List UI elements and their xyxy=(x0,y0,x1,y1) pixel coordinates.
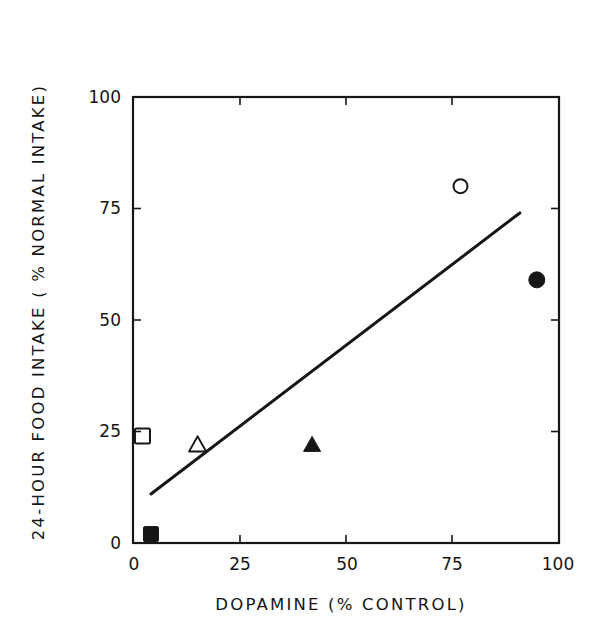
y-tick-0: 0 xyxy=(110,533,121,553)
filled-square-marker xyxy=(143,527,158,542)
data-markers xyxy=(135,179,545,541)
filled-triangle-marker xyxy=(304,436,321,451)
y-axis-label: 24-HOUR FOOD INTAKE ( % NORMAL INTAKE) xyxy=(29,84,48,540)
y-tick-50: 50 xyxy=(99,310,121,330)
x-tick-100: 100 xyxy=(542,554,574,574)
open-circle-marker xyxy=(453,179,467,193)
x-tick-75: 75 xyxy=(441,554,463,574)
filled-circle-marker xyxy=(529,272,545,288)
axis-ticks xyxy=(133,97,559,543)
plot-frame xyxy=(133,97,559,543)
y-tick-25: 25 xyxy=(99,421,121,441)
open-triangle-marker xyxy=(189,436,206,451)
x-tick-25: 25 xyxy=(229,554,251,574)
tick-labels: 0 25 50 75 100 0 25 50 75 100 xyxy=(89,87,575,574)
y-tick-75: 75 xyxy=(99,198,121,218)
scatter-chart: 0 25 50 75 100 0 25 50 75 100 DOPAMINE (… xyxy=(0,0,605,639)
x-tick-50: 50 xyxy=(336,554,358,574)
y-tick-100: 100 xyxy=(89,87,121,107)
x-axis-label: DOPAMINE (% CONTROL) xyxy=(215,595,466,614)
x-tick-0: 0 xyxy=(129,554,140,574)
